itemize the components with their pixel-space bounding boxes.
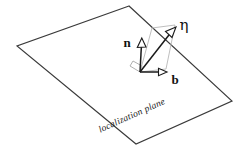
localization-plane-caption: localization plane [97, 96, 167, 134]
vector-eta-shaft [140, 33, 171, 72]
vector-b-label: b [171, 72, 178, 87]
vector-eta-arrowhead [166, 27, 177, 38]
vector-eta [140, 27, 176, 72]
vector-n-label: n [123, 35, 131, 50]
vector-eta-label: η [180, 16, 189, 34]
figure-root: n η b localization plane [0, 0, 247, 149]
vector-n-arrowhead [137, 38, 146, 48]
diagram-canvas: n η b localization plane [0, 0, 247, 149]
